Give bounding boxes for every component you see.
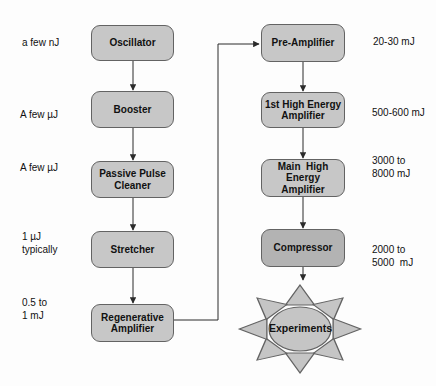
sun-ray-n	[286, 285, 315, 305]
energy-label-cleaner: A few µJ	[20, 162, 58, 175]
energy-label-preamp: 20-30 mJ	[373, 36, 415, 49]
energy-label-main-he: 3000 to 8000 mJ	[372, 155, 410, 180]
sun-ray-s	[286, 353, 315, 373]
energy-label-oscillator: a few nJ	[22, 37, 59, 50]
connector-regen-to-preamp	[174, 44, 259, 320]
energy-label-stretcher: 1 µJ typically	[22, 231, 58, 256]
energy-label-booster: A few µJ	[20, 109, 58, 122]
box-pre-amplifier: Pre-Amplifier	[261, 24, 345, 62]
box-compressor: Compressor	[261, 229, 345, 267]
box-regenerative-amplifier: Regenerative Amplifier	[91, 304, 174, 342]
energy-label-first-he: 500-600 mJ	[372, 107, 425, 120]
box-oscillator: Oscillator	[91, 25, 174, 61]
box-stretcher: Stretcher	[91, 231, 174, 268]
box-first-high-energy-amplifier: 1st High Energy Amplifier	[261, 92, 345, 128]
box-passive-pulse-cleaner: Passive Pulse Cleaner	[91, 161, 174, 198]
box-main-high-energy-amplifier: Main High Energy Amplifier	[261, 159, 345, 197]
box-booster: Booster	[91, 91, 174, 128]
flow-connectors-layer	[0, 0, 436, 386]
energy-label-regen: 0.5 to 1 mJ	[22, 297, 47, 322]
experiments-label: Experiments	[262, 322, 339, 334]
laser-chain-diagram: Oscillator Booster Passive Pulse Cleaner…	[0, 0, 436, 386]
energy-label-compressor: 2000 to 5000 mJ	[372, 244, 413, 269]
